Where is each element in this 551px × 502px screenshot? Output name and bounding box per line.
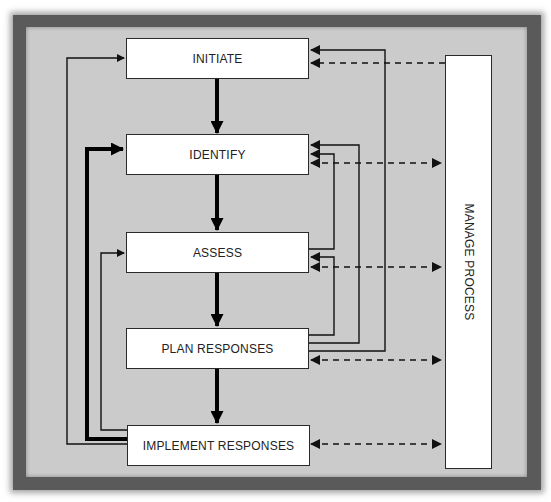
manage-process-box: MANAGE PROCESS — [445, 55, 492, 469]
step-identify: IDENTIFY — [126, 134, 309, 175]
left-feedback-loops — [67, 58, 127, 444]
step-plan-responses-label: PLAN RESPONSES — [161, 342, 273, 356]
right-feedback-loops — [308, 50, 385, 351]
step-initiate-label: INITIATE — [192, 52, 242, 66]
step-identify-label: IDENTIFY — [189, 148, 245, 162]
step-initiate: INITIATE — [126, 38, 309, 79]
step-plan-responses: PLAN RESPONSES — [126, 328, 309, 369]
manage-process-links — [311, 63, 445, 444]
manage-process-label: MANAGE PROCESS — [462, 204, 476, 321]
step-implement-responses-label: IMPLEMENT RESPONSES — [143, 439, 295, 453]
step-assess-label: ASSESS — [193, 246, 242, 260]
step-assess: ASSESS — [126, 232, 309, 273]
step-implement-responses: IMPLEMENT RESPONSES — [127, 425, 310, 466]
